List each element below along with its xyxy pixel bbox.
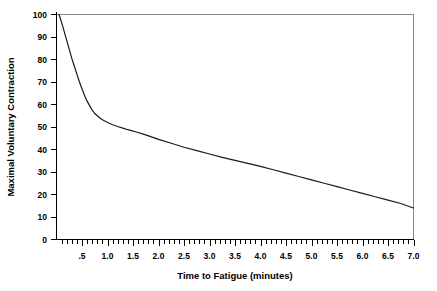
x-tick-label: 1.5 xyxy=(127,251,139,261)
x-axis-tick-labels: .51.01.52.02.53.03.54.04.55.05.56.06.57.… xyxy=(78,251,419,261)
x-tick-label: 2.0 xyxy=(153,251,165,261)
y-tick-label-50: 50 xyxy=(38,122,48,132)
y-axis-tick-labels: 0 10 20 30 40 50 60 70 80 90 100 xyxy=(33,10,47,245)
y-axis-title: Maximal Voluntary Contraction xyxy=(5,57,16,196)
y-tick-label-70: 70 xyxy=(38,77,48,87)
y-tick-label-10: 10 xyxy=(38,212,48,222)
x-tick-label: 3.5 xyxy=(229,251,241,261)
y-tick-label-100: 100 xyxy=(33,10,47,20)
y-tick-label-30: 30 xyxy=(38,167,48,177)
chart-plot-svg: 0 10 20 30 40 50 60 70 80 90 100 .51.01.… xyxy=(0,0,437,291)
x-tick-label: 4.0 xyxy=(255,251,267,261)
x-tick-label: 5.0 xyxy=(306,251,318,261)
y-tick-label-40: 40 xyxy=(38,145,48,155)
x-tick-label: 7.0 xyxy=(408,251,420,261)
chart-container: 0 10 20 30 40 50 60 70 80 90 100 .51.01.… xyxy=(0,0,437,291)
y-tick-label-80: 80 xyxy=(38,55,48,65)
x-tick-label: 2.5 xyxy=(178,251,190,261)
x-tick-label: 6.5 xyxy=(382,251,394,261)
y-axis-ticks xyxy=(51,15,56,240)
y-tick-label-0: 0 xyxy=(42,235,47,245)
x-tick-label: 1.0 xyxy=(102,251,114,261)
y-tick-label-20: 20 xyxy=(38,190,48,200)
x-tick-label: 5.5 xyxy=(331,251,343,261)
x-tick-label: .5 xyxy=(78,251,85,261)
x-tick-label: 3.0 xyxy=(204,251,216,261)
y-tick-label-60: 60 xyxy=(38,100,48,110)
x-axis-title: Time to Fatigue (minutes) xyxy=(177,270,292,281)
x-tick-label: 4.5 xyxy=(280,251,292,261)
mvc-decay-curve xyxy=(59,15,413,209)
x-axis-ticks xyxy=(63,240,415,246)
x-tick-label: 6.0 xyxy=(357,251,369,261)
y-tick-label-90: 90 xyxy=(38,32,48,42)
